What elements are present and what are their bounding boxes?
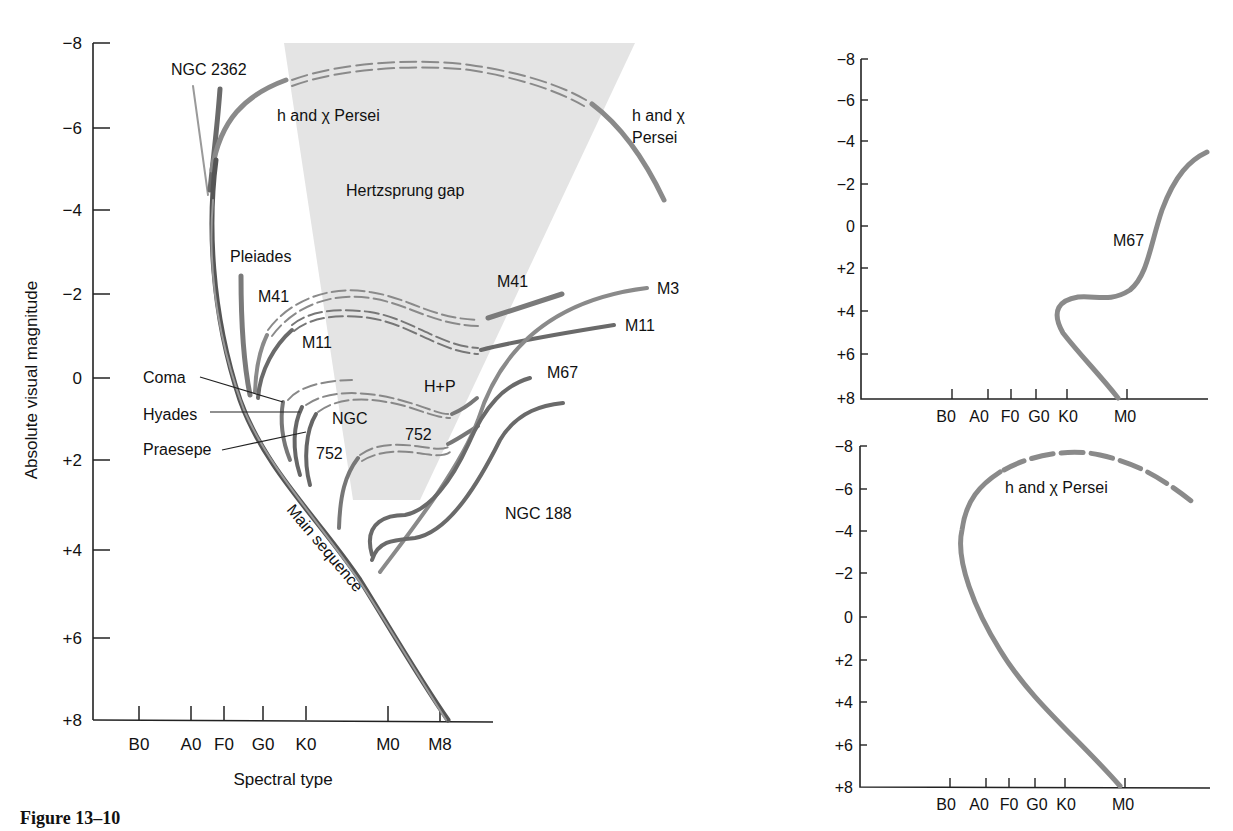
label-pleiades: Pleiades: [230, 248, 291, 265]
y-tick-label: −4: [63, 201, 82, 220]
y-tick-label: −8: [837, 51, 855, 68]
label-main-sequence: Main sequence: [284, 501, 367, 595]
x-tick-label: K0: [1058, 408, 1078, 425]
main-y-axis-title: Absolute visual magnitude: [22, 281, 41, 479]
label-hchi-persei-inset: h and χ Persei: [1005, 479, 1108, 496]
m67-y-tick-labels: −8 −6 −4 −2 0 +2 +4 +6 +8: [837, 51, 855, 407]
label-ngc752-line1: NGC: [332, 410, 368, 427]
x-tick-label: F0: [1001, 408, 1020, 425]
hchi-inset-solid: [961, 472, 1120, 786]
y-tick-label: +8: [837, 390, 855, 407]
label-praesepe: Praesepe: [143, 441, 212, 458]
main-x-ticks: [139, 706, 440, 721]
y-tick-label: +6: [837, 346, 855, 363]
m67-inset-chart: −8 −6 −4 −2 0 +2 +4 +6 +8 B0 A0 F0 G0 K0…: [837, 51, 1208, 425]
label-ngc2362: NGC 2362: [171, 61, 247, 78]
label-h-plus-p: H+P: [424, 378, 456, 395]
y-tick-label: −6: [835, 481, 853, 498]
x-tick-label: B0: [129, 735, 150, 754]
label-m11-right: M11: [625, 317, 655, 334]
y-tick-label: −8: [835, 438, 853, 455]
x-tick-label: M0: [376, 735, 400, 754]
x-tick-label: B0: [936, 796, 956, 813]
ngc2362-thin-line: [193, 86, 208, 195]
x-tick-label: A0: [969, 408, 989, 425]
coma-curve: [282, 402, 290, 460]
y-tick-label: +2: [837, 260, 855, 277]
y-tick-label: −6: [63, 119, 82, 138]
x-tick-label: A0: [969, 796, 989, 813]
label-hyades: Hyades: [143, 406, 197, 423]
label-ngc752-right: 752: [405, 426, 432, 443]
y-tick-label: −2: [835, 565, 853, 582]
figure-caption: Figure 13–10: [20, 808, 120, 829]
x-tick-label: G0: [252, 735, 275, 754]
hyades-curve: [295, 407, 302, 475]
x-tick-label: K0: [296, 735, 317, 754]
x-tick-label: F0: [1000, 796, 1019, 813]
main-y-tick-labels: −8 −6 −4 −2 0 +2 +4 +6 +8: [63, 34, 82, 730]
hchi-persei-lower-solid: [212, 80, 286, 170]
x-tick-label: K0: [1056, 796, 1076, 813]
y-tick-label: +2: [63, 451, 82, 470]
y-tick-label: +8: [835, 779, 853, 796]
hchi-y-ticks: [860, 446, 867, 745]
x-tick-label: F0: [214, 735, 234, 754]
x-tick-label: B0: [936, 408, 956, 425]
x-tick-label: M0: [1114, 408, 1136, 425]
main-y-ticks: [93, 43, 110, 638]
x-tick-label: M0: [1112, 796, 1134, 813]
m67-x-ticks: [952, 389, 1127, 399]
main-x-axis: [93, 720, 493, 722]
hchi-axes: [860, 446, 1210, 788]
y-tick-label: 0: [846, 218, 855, 235]
label-hchi-persei-right-line2: Persei: [632, 129, 677, 146]
hr-diagram-figure: −8 −6 −4 −2 0 +2 +4 +6 +8 B0 A0 F0 G0 K0…: [0, 0, 1233, 831]
y-tick-label: −2: [63, 285, 82, 304]
y-tick-label: +6: [835, 737, 853, 754]
x-tick-label: M8: [428, 735, 452, 754]
m67-inset-curve: [1057, 152, 1207, 398]
main-chart: −8 −6 −4 −2 0 +2 +4 +6 +8 B0 A0 F0 G0 K0…: [22, 34, 685, 789]
label-hchi-persei-right-line1: h and χ: [632, 107, 685, 124]
label-m67: M67: [547, 364, 578, 381]
main-x-axis-title: Spectral type: [233, 770, 332, 789]
label-m11-left: M11: [302, 334, 332, 351]
x-tick-label: G0: [1028, 408, 1049, 425]
m67-y-ticks: [861, 59, 868, 354]
y-tick-label: +8: [63, 711, 82, 730]
y-tick-label: +4: [63, 541, 82, 560]
label-m3: M3: [657, 280, 679, 297]
y-tick-label: +2: [835, 652, 853, 669]
y-tick-label: +4: [835, 694, 853, 711]
hchi-persei-inset-chart: −8 −6 −4 −2 0 +2 +4 +6 +8 B0 A0 F0 G0 K0…: [835, 438, 1210, 813]
label-ngc188: NGC 188: [505, 505, 572, 522]
pleiades-curve: [241, 276, 250, 395]
y-tick-label: −8: [63, 34, 82, 53]
label-m67-inset: M67: [1113, 232, 1144, 249]
hchi-x-ticks: [950, 778, 1125, 787]
x-tick-label: G0: [1026, 796, 1047, 813]
y-tick-label: +4: [837, 303, 855, 320]
y-tick-label: −4: [837, 133, 855, 150]
hchi-y-tick-labels: −8 −6 −4 −2 0 +2 +4 +6 +8: [835, 438, 853, 796]
y-tick-label: +6: [63, 629, 82, 648]
label-m41-right: M41: [497, 273, 528, 290]
y-tick-label: 0: [844, 609, 853, 626]
label-hertzsprung-gap: Hertzsprung gap: [346, 182, 464, 199]
y-tick-label: −6: [837, 92, 855, 109]
x-tick-label: A0: [181, 735, 202, 754]
y-tick-label: −4: [835, 523, 853, 540]
hchi-x-tick-labels: B0 A0 F0 G0 K0 M0: [936, 796, 1134, 813]
praesepe-curve: [306, 414, 316, 485]
label-m41-left: M41: [258, 288, 289, 305]
main-x-tick-labels: B0 A0 F0 G0 K0 M0 M8: [129, 735, 452, 754]
y-tick-label: −2: [837, 176, 855, 193]
m11-right-solid: [481, 325, 614, 350]
y-tick-label: 0: [73, 369, 82, 388]
label-hchi-persei-left: h and χ Persei: [277, 107, 380, 124]
label-coma: Coma: [143, 369, 186, 386]
leader-lines: [200, 377, 306, 450]
m67-x-tick-labels: B0 A0 F0 G0 K0 M0: [936, 408, 1136, 425]
label-ngc752-line2: 752: [316, 445, 343, 462]
